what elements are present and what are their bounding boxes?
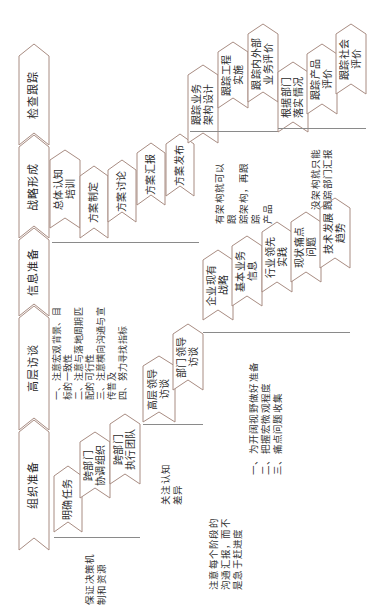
note-strategy: 注意每个阶段的 沟通汇报，而不 是急于赶进度 <box>208 500 244 590</box>
step-current-pain-points: 现状痛点 问题 <box>291 212 321 282</box>
step-label: 部门领导 访谈 <box>176 336 200 378</box>
main-step-information: 信息准备 <box>19 228 49 316</box>
brace-tracking-without-arch <box>278 128 366 129</box>
step-label: 跟踪内外部 业务评价 <box>251 37 275 90</box>
step-label: 现状痛点 问题 <box>294 226 318 268</box>
step-label: 明确任务 <box>62 478 74 520</box>
brace-organization <box>54 537 140 538</box>
step-existing-strategy: 企业现有 战略 <box>203 250 233 320</box>
step-track-product-evaluation: 跟踪产品 评价 <box>307 44 337 114</box>
main-step-tracking: 检查跟踪 <box>19 44 49 145</box>
brace-interview <box>143 424 203 425</box>
step-plan-draft: 方案制定 <box>80 166 108 238</box>
step-label: 总体认知 培训 <box>53 168 77 210</box>
note-interview: 关注认知 差异 <box>160 455 184 505</box>
step-define-task: 明确任务 <box>54 466 82 532</box>
brace-information <box>203 332 350 333</box>
step-plan-discussion: 方案讨论 <box>108 160 136 222</box>
interview-guidelines: 一、注意宏观背景、目 标的一致性 二、注意与落地周期匹 配的可行性 三、注意横向… <box>52 250 129 400</box>
step-cross-dept-coordination: 跨部门 协调组织 <box>80 432 110 498</box>
step-overall-training: 总体认知 培训 <box>50 150 80 228</box>
step-plan-report: 方案汇报 <box>137 143 165 205</box>
step-label: 跨部门 执行团队 <box>113 428 137 470</box>
step-label: 跟踪工程 实施 <box>221 54 245 96</box>
note-tracking-with-arch: 有架构就可以跟 踪架构，再跟踪 产品 <box>214 152 274 224</box>
step-plan-release: 方案发布 <box>166 134 194 196</box>
step-industry-best-practice: 行业领先 实践 <box>262 222 292 292</box>
brace-tracking-with-arch <box>190 131 278 132</box>
step-basic-business-info: 基本业务 信息 <box>232 236 262 306</box>
step-label: 企业现有 战略 <box>206 264 230 306</box>
main-step-organization: 组织准备 <box>19 420 49 550</box>
step-cross-dept-execution: 跨部门 执行团队 <box>110 414 140 484</box>
step-dept-leader-interview: 部门领导 访谈 <box>173 324 203 390</box>
note-information: 一、为开阔视野做好准备 二、把握宏微观程度 三、痛点问题收集 <box>248 360 284 475</box>
main-step-label: 信息准备 <box>28 248 40 296</box>
step-label: 方案讨论 <box>116 170 128 212</box>
main-step-label: 战略形成 <box>28 163 40 211</box>
main-step-label: 组织准备 <box>28 461 40 509</box>
main-step-label: 高层访谈 <box>28 344 40 392</box>
step-label: 技术发展 趋势 <box>323 212 347 254</box>
step-dept-implementation: 根据部门 落实情况 <box>278 62 308 132</box>
step-label: 高层领导 访谈 <box>147 368 171 410</box>
step-label: 基本业务 信息 <box>235 250 259 292</box>
main-step-interview: 高层访谈 <box>19 306 49 430</box>
note-organization: 保证决策机 制和资源 <box>84 550 108 605</box>
step-track-business-evaluation: 跟踪内外部 业务评价 <box>248 24 278 102</box>
step-label: 跨部门 协调组织 <box>83 444 107 486</box>
main-step-label: 检查跟踪 <box>28 71 40 119</box>
step-track-social-evaluation: 跟踪社会 评价 <box>336 24 366 94</box>
brace-strategy <box>52 242 199 243</box>
step-label: 方案制定 <box>88 181 100 223</box>
step-label: 跟踪社会 评价 <box>339 38 363 80</box>
step-senior-leader-interview: 高层领导 访谈 <box>143 356 175 422</box>
main-step-strategy: 战略形成 <box>19 135 49 238</box>
step-label: 方案发布 <box>174 144 186 186</box>
step-label: 跟踪产品 评价 <box>310 58 334 100</box>
step-label: 方案汇报 <box>145 153 157 195</box>
step-label: 根据部门 落实情况 <box>281 76 305 118</box>
note-tracking-without-arch: 没架构就只能 跟踪部门汇报 <box>310 146 334 210</box>
step-label: 行业领先 实践 <box>265 236 289 278</box>
step-label: 跟踪业务 架构设计 <box>191 83 215 125</box>
step-track-engineering: 跟踪工程 实施 <box>218 42 248 108</box>
